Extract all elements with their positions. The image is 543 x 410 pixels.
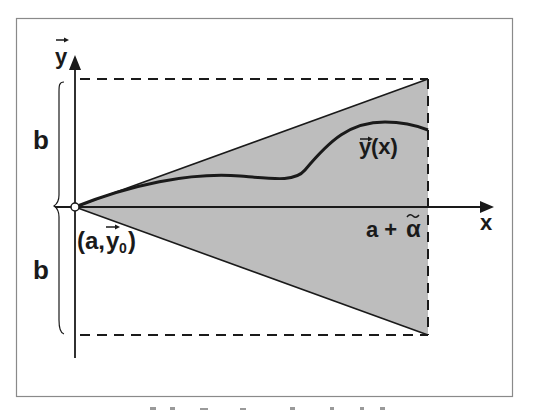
y-axis-arrow-icon [69, 55, 81, 70]
y-axis-label: y [55, 38, 69, 70]
svg-text:(x): (x) [371, 134, 398, 159]
svg-text:α: α [406, 215, 421, 242]
lower-brace-icon [59, 217, 64, 334]
upper-brace-icon [54, 82, 64, 217]
initial-point-marker [71, 203, 79, 211]
solution-curve-label: y (x) [359, 134, 398, 159]
vector-arrowhead-icon [64, 38, 69, 43]
svg-text:a +: a + [366, 217, 397, 242]
upper-brace-label: b [33, 125, 49, 155]
initial-point-label: (a, y 0 ) [77, 225, 136, 257]
svg-text:): ) [128, 227, 136, 254]
svg-text:(a,: (a, [77, 227, 105, 254]
lower-brace-label: b [33, 255, 49, 285]
svg-text:y: y [106, 227, 120, 254]
diagram-canvas: y x b b (a, y 0 ) y (x) a + α [0, 0, 543, 410]
svg-text:y: y [55, 44, 68, 69]
right-bound-label: a + α [366, 215, 421, 242]
x-axis-label: x [480, 210, 493, 235]
svg-text:0: 0 [119, 240, 127, 256]
